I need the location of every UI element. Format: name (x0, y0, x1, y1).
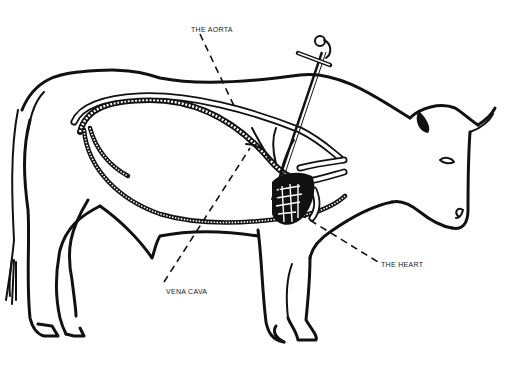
label-heart: THE HEART (381, 261, 423, 268)
vena-cava-leader (164, 148, 250, 282)
nostril-icon (456, 209, 463, 218)
label-vena-cava: VENA CAVA (166, 288, 207, 295)
bull-face (440, 158, 463, 218)
label-aorta: THE AORTA (191, 26, 233, 33)
ear-icon (417, 112, 430, 133)
bull-illustration (0, 0, 522, 366)
eye-icon (440, 158, 454, 163)
bull-anatomy-diagram: THE AORTA VENA CAVA THE HEART (0, 0, 522, 366)
